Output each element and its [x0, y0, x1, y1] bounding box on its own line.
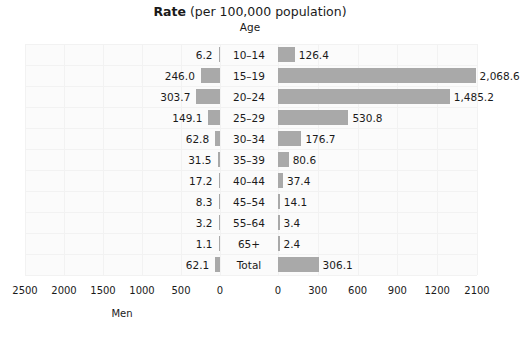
chart-row: 1.165+2.4 — [0, 233, 500, 254]
men-bar-cell: 246.0 — [0, 65, 220, 86]
men-bar-cell: 303.7 — [0, 86, 220, 107]
axis-tick-men: 1500 — [90, 285, 115, 296]
men-bar — [219, 47, 221, 62]
chart-row: 17.240–4437.4 — [0, 170, 500, 191]
men-value-label: 8.3 — [196, 196, 215, 208]
age-group-label: 25–29 — [220, 112, 278, 124]
men-bar-cell: 17.2 — [0, 170, 220, 191]
men-bar — [219, 173, 221, 188]
chart-row: 62.1Total306.1 — [0, 254, 500, 275]
women-bar — [278, 131, 301, 146]
chart-row: 303.720–241,485.2 — [0, 86, 500, 107]
women-bar — [278, 152, 289, 167]
men-value-label: 303.7 — [160, 91, 192, 103]
axis-tick-men: 500 — [171, 285, 190, 296]
chart-row: 6.210–14126.4 — [0, 44, 500, 65]
age-group-label: 10–14 — [220, 49, 278, 61]
men-bar-cell: 62.8 — [0, 128, 220, 149]
age-group-label: 45–54 — [220, 196, 278, 208]
axis-tick-men: 0 — [217, 285, 223, 296]
right-axis-women: 030060090012002100 — [250, 285, 500, 299]
age-group-label: 30–34 — [220, 133, 278, 145]
chart-title-strong: Rate — [153, 4, 186, 19]
men-bar-cell: 3.2 — [0, 212, 220, 233]
men-bar — [219, 215, 221, 230]
chart-row: 62.830–34176.7 — [0, 128, 500, 149]
men-bar-cell: 31.5 — [0, 149, 220, 170]
women-value-label: 2.4 — [280, 238, 301, 250]
chart-title-block: Rate (per 100,000 population) Age — [0, 4, 500, 34]
men-value-label: 246.0 — [165, 70, 197, 82]
women-bar — [278, 68, 476, 83]
men-value-label: 62.8 — [186, 133, 211, 145]
chart-row: 31.535–3980.6 — [0, 149, 500, 170]
men-bar — [196, 89, 220, 104]
women-value-label: 14.1 — [280, 196, 307, 208]
women-value-label: 126.4 — [295, 49, 329, 61]
women-value-label: 530.8 — [348, 112, 382, 124]
women-value-label: 3.4 — [280, 217, 301, 229]
women-bar-cell: 2,068.6 — [278, 65, 500, 86]
axis-tick-women: 300 — [308, 285, 327, 296]
men-bar-cell: 149.1 — [0, 107, 220, 128]
axis-tick-women: 0 — [275, 285, 281, 296]
women-bar-cell: 14.1 — [278, 191, 500, 212]
chart-row: 8.345–5414.1 — [0, 191, 500, 212]
women-value-label: 80.6 — [289, 154, 316, 166]
men-bar — [218, 152, 220, 167]
axis-title-men: Men — [111, 308, 132, 319]
age-group-label: 20–24 — [220, 91, 278, 103]
men-value-label: 149.1 — [172, 112, 204, 124]
axis-tick-women: 2100 — [464, 285, 489, 296]
men-bar-cell: 62.1 — [0, 254, 220, 275]
age-group-label: Total — [220, 259, 278, 271]
women-bar-cell: 2.4 — [278, 233, 500, 254]
men-value-label: 1.1 — [196, 238, 215, 250]
women-value-label: 176.7 — [301, 133, 335, 145]
axis-tick-women: 600 — [348, 285, 367, 296]
women-bar — [278, 257, 319, 272]
gridline-horizontal — [25, 275, 477, 276]
chart-row: 3.255–643.4 — [0, 212, 500, 233]
men-bar — [201, 68, 220, 83]
women-value-label: 306.1 — [319, 259, 353, 271]
age-group-label: 40–44 — [220, 175, 278, 187]
age-group-label: 15–19 — [220, 70, 278, 82]
men-bar-cell: 1.1 — [0, 233, 220, 254]
men-bar — [219, 194, 221, 209]
women-value-label: 1,485.2 — [450, 91, 494, 103]
women-value-label: 37.4 — [283, 175, 310, 187]
women-bar-cell: 126.4 — [278, 44, 500, 65]
men-value-label: 6.2 — [196, 49, 215, 61]
women-bar-cell: 3.4 — [278, 212, 500, 233]
age-group-label: 35–39 — [220, 154, 278, 166]
women-bar-cell: 80.6 — [278, 149, 500, 170]
women-bar-cell: 1,485.2 — [278, 86, 500, 107]
women-bar — [278, 89, 450, 104]
axis-tick-men: 2500 — [12, 285, 37, 296]
chart-subtitle: Age — [0, 20, 500, 34]
men-bar — [208, 110, 220, 125]
women-value-label: 2,068.6 — [476, 70, 520, 82]
age-group-label: 65+ — [220, 238, 278, 250]
men-value-label: 3.2 — [196, 217, 215, 229]
women-bar — [278, 47, 295, 62]
men-bar — [215, 131, 220, 146]
chart-row: 246.015–192,068.6 — [0, 65, 500, 86]
chart-row: 149.125–29530.8 — [0, 107, 500, 128]
age-group-label: 55–64 — [220, 217, 278, 229]
men-bar-cell: 8.3 — [0, 191, 220, 212]
women-bar-cell: 37.4 — [278, 170, 500, 191]
women-bar-cell: 176.7 — [278, 128, 500, 149]
men-value-label: 17.2 — [189, 175, 214, 187]
left-axis-men: 25002000150010005000 — [0, 285, 250, 299]
chart-title-rest: (per 100,000 population) — [186, 4, 347, 19]
men-value-label: 31.5 — [188, 154, 213, 166]
axis-tick-men: 2000 — [51, 285, 76, 296]
women-bar — [278, 110, 348, 125]
men-bar-cell: 6.2 — [0, 44, 220, 65]
men-value-label: 62.1 — [186, 259, 211, 271]
men-bar — [215, 257, 220, 272]
women-bar-cell: 530.8 — [278, 107, 500, 128]
